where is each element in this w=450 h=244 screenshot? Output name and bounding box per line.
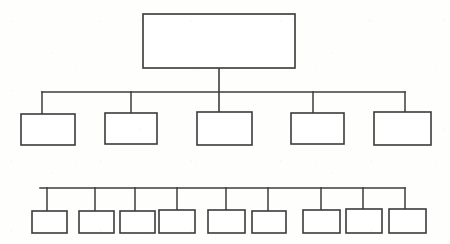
node-box-level-3-3[interactable] <box>120 211 155 233</box>
node-box-root[interactable] <box>143 14 295 68</box>
node-box-level-3-9[interactable] <box>389 209 426 233</box>
org-chart-svg <box>0 0 450 244</box>
node-box-level-3-4[interactable] <box>159 210 195 233</box>
node-box-level-2-1[interactable] <box>21 114 75 145</box>
node-box-level-3-5[interactable] <box>208 210 245 233</box>
node-box-level-3-6[interactable] <box>252 211 286 233</box>
node-box-level-2-4[interactable] <box>291 113 344 144</box>
org-chart-canvas <box>0 0 450 244</box>
node-box-level-3-8[interactable] <box>346 209 382 233</box>
node-box-level-2-3[interactable] <box>197 112 252 145</box>
node-box-level-3-7[interactable] <box>303 210 340 233</box>
node-box-level-2-5[interactable] <box>374 112 431 145</box>
node-box-level-3-2[interactable] <box>79 211 114 233</box>
node-box-level-2-2[interactable] <box>105 113 157 144</box>
node-box-level-3-1[interactable] <box>32 211 67 233</box>
